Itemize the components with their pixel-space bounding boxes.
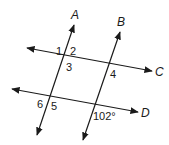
line-b [83, 32, 120, 140]
angle-6-label: 6 [37, 98, 43, 110]
line-d [12, 89, 138, 112]
line-a-label: A [70, 8, 79, 22]
line-d-label: D [141, 106, 150, 120]
line-c [27, 48, 152, 71]
angle-3-label: 3 [66, 61, 72, 73]
angle-5-label: 5 [51, 100, 57, 112]
angle-2-label: 2 [70, 45, 76, 57]
line-b-label: B [117, 15, 125, 29]
parallel-lines-diagram: A B C D 1 2 3 4 6 5 102° [0, 0, 169, 145]
angle-102-label: 102° [93, 110, 116, 122]
line-a [37, 25, 74, 135]
angle-1-label: 1 [56, 45, 62, 57]
line-c-label: C [155, 65, 164, 79]
angle-4-label: 4 [110, 68, 116, 80]
